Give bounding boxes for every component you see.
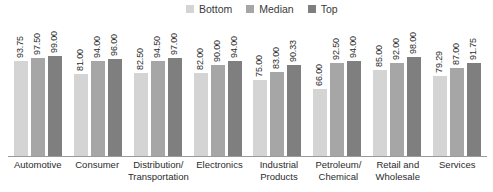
bar-rect bbox=[450, 68, 464, 156]
bar-median[interactable]: 94.00 bbox=[91, 18, 105, 156]
bar-value-label: 99.00 bbox=[49, 31, 59, 53]
bar-rect bbox=[134, 73, 148, 156]
legend-item-label: Median bbox=[259, 4, 293, 14]
bar-rect bbox=[407, 57, 421, 156]
bar-median[interactable]: 87.00 bbox=[450, 18, 464, 156]
category-label: Services bbox=[428, 159, 487, 182]
bar-rect bbox=[253, 80, 267, 156]
bar-median[interactable]: 90.00 bbox=[211, 18, 225, 156]
bar-bottom[interactable]: 82.50 bbox=[134, 18, 148, 156]
bar-rect bbox=[48, 56, 62, 156]
bar-rect bbox=[228, 61, 242, 156]
bar-rect bbox=[108, 59, 122, 156]
plot-area: 93.7597.5099.0081.0094.0096.0082.5094.50… bbox=[0, 18, 493, 157]
category-label: Automotive bbox=[8, 159, 67, 182]
bar-top[interactable]: 91.75 bbox=[467, 18, 481, 156]
bar-top[interactable]: 90.33 bbox=[287, 18, 301, 156]
legend-swatch-icon bbox=[186, 5, 194, 13]
bar-rect bbox=[373, 70, 387, 156]
bar-rect bbox=[330, 63, 344, 156]
bar-value-label: 94.00 bbox=[229, 36, 239, 58]
bar-bottom[interactable]: 82.00 bbox=[194, 18, 208, 156]
bar-value-label: 81.00 bbox=[75, 49, 85, 71]
bar-value-label: 87.00 bbox=[451, 43, 461, 65]
bar-rect bbox=[270, 72, 284, 156]
bar-value-label: 92.00 bbox=[391, 38, 401, 60]
bar-value-label: 92.50 bbox=[331, 38, 341, 60]
legend-swatch-icon bbox=[308, 5, 316, 13]
bar-group: 79.2987.0091.75 bbox=[427, 18, 487, 156]
bar-group: 75.0083.0090.33 bbox=[248, 18, 308, 156]
bar-rect bbox=[287, 65, 301, 156]
bar-value-label: 90.33 bbox=[288, 40, 298, 62]
bar-top[interactable]: 94.00 bbox=[347, 18, 361, 156]
bar-value-label: 94.00 bbox=[348, 36, 358, 58]
bar-bottom[interactable]: 75.00 bbox=[253, 18, 267, 156]
legend-swatch-icon bbox=[246, 5, 254, 13]
bar-bottom[interactable]: 66.00 bbox=[313, 18, 327, 156]
bar-value-label: 75.00 bbox=[254, 55, 264, 77]
category-label: Electronics bbox=[190, 159, 249, 182]
category-label: Distribution/ Transportation bbox=[127, 159, 190, 182]
bar-rect bbox=[390, 63, 404, 156]
bar-value-label: 96.00 bbox=[109, 34, 119, 56]
bar-rect bbox=[313, 89, 327, 156]
bar-group: 81.0094.0096.00 bbox=[68, 18, 128, 156]
legend-item-label: Top bbox=[321, 4, 338, 14]
bar-median[interactable]: 97.50 bbox=[31, 18, 45, 156]
bar-bottom[interactable]: 93.75 bbox=[14, 18, 28, 156]
bar-group: 85.0092.0098.00 bbox=[367, 18, 427, 156]
bar-median[interactable]: 94.50 bbox=[151, 18, 165, 156]
bar-rect bbox=[211, 65, 225, 156]
bar-value-label: 79.29 bbox=[434, 51, 444, 73]
bar-value-label: 66.00 bbox=[314, 64, 324, 86]
bar-group: 82.0090.0094.00 bbox=[188, 18, 248, 156]
bar-rect bbox=[347, 61, 361, 156]
bar-rect bbox=[14, 61, 28, 156]
grouped-bar-chart: BottomMedianTop 93.7597.5099.0081.0094.0… bbox=[0, 0, 493, 192]
bar-value-label: 85.00 bbox=[374, 45, 384, 67]
bar-value-label: 82.50 bbox=[135, 48, 145, 70]
legend-item-label: Bottom bbox=[199, 4, 232, 14]
bar-rect bbox=[467, 63, 481, 156]
bar-top[interactable]: 98.00 bbox=[407, 18, 421, 156]
bar-value-label: 98.00 bbox=[408, 32, 418, 54]
bar-rect bbox=[433, 76, 447, 156]
bar-groups: 93.7597.5099.0081.0094.0096.0082.5094.50… bbox=[8, 18, 487, 156]
bar-value-label: 90.00 bbox=[212, 40, 222, 62]
bar-rect bbox=[151, 61, 165, 156]
bar-top[interactable]: 97.00 bbox=[168, 18, 182, 156]
bar-rect bbox=[194, 73, 208, 156]
chart-legend: BottomMedianTop bbox=[186, 2, 338, 16]
bar-value-label: 83.00 bbox=[271, 47, 281, 69]
bar-value-label: 94.50 bbox=[152, 36, 162, 58]
bar-bottom[interactable]: 79.29 bbox=[433, 18, 447, 156]
category-label: Petroleum/ Chemical bbox=[309, 159, 368, 182]
bar-value-label: 91.75 bbox=[468, 38, 478, 60]
bar-group: 66.0092.5094.00 bbox=[307, 18, 367, 156]
legend-item-median[interactable]: Median bbox=[246, 4, 293, 14]
bar-top[interactable]: 94.00 bbox=[228, 18, 242, 156]
bar-rect bbox=[168, 58, 182, 156]
bar-rect bbox=[74, 74, 88, 156]
category-label: Retail and Wholesale bbox=[368, 159, 427, 182]
bar-group: 93.7597.5099.00 bbox=[8, 18, 68, 156]
bar-median[interactable]: 92.00 bbox=[390, 18, 404, 156]
bar-rect bbox=[31, 58, 45, 156]
category-label: Industrial Products bbox=[249, 159, 308, 182]
bar-value-label: 97.00 bbox=[169, 33, 179, 55]
legend-item-bottom[interactable]: Bottom bbox=[186, 4, 232, 14]
bar-value-label: 93.75 bbox=[15, 36, 25, 58]
bar-median[interactable]: 92.50 bbox=[330, 18, 344, 156]
category-label: Consumer bbox=[67, 159, 126, 182]
bar-bottom[interactable]: 81.00 bbox=[74, 18, 88, 156]
bar-top[interactable]: 96.00 bbox=[108, 18, 122, 156]
bar-value-label: 97.50 bbox=[32, 33, 42, 55]
bar-median[interactable]: 83.00 bbox=[270, 18, 284, 156]
bar-group: 82.5094.5097.00 bbox=[128, 18, 188, 156]
category-axis-labels: AutomotiveConsumerDistribution/ Transpor… bbox=[8, 159, 487, 182]
legend-item-top[interactable]: Top bbox=[308, 4, 338, 14]
bar-bottom[interactable]: 85.00 bbox=[373, 18, 387, 156]
bar-value-label: 82.00 bbox=[195, 48, 205, 70]
bar-top[interactable]: 99.00 bbox=[48, 18, 62, 156]
